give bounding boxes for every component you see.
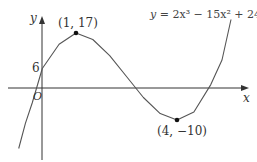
- min-point-label: (4, −10): [157, 124, 207, 138]
- x-axis-label: x: [243, 91, 250, 105]
- y-axis-label: y: [29, 11, 37, 25]
- min-point-marker: [175, 118, 180, 123]
- equation-label: y = 2x³ − 15x² + 24x + 6: [150, 8, 257, 21]
- origin-label: O: [33, 90, 42, 103]
- max-point-marker: [74, 31, 79, 36]
- cubic-graph: y x O 6 (1, 17) (4, −10): [0, 0, 257, 162]
- y-intercept-label: 6: [32, 61, 40, 75]
- equation-body: = 2x³ − 15x² + 24x + 6: [156, 8, 257, 21]
- max-point-label: (1, 17): [58, 16, 98, 30]
- y-axis-arrow-icon: [39, 16, 45, 24]
